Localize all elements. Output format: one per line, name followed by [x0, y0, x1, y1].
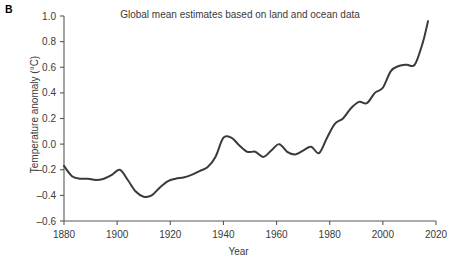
x-tick-label: 2020	[425, 229, 448, 240]
figure-panel-b: B Global mean estimates based on land an…	[0, 0, 457, 268]
x-tick-label-group: 18801900192019401960198020002020	[53, 229, 448, 240]
y-tick-label: 0.4	[42, 87, 56, 98]
x-tick-label: 1940	[212, 229, 235, 240]
x-tick-label: 1980	[319, 229, 342, 240]
y-tick-label: 0.2	[42, 113, 56, 124]
x-tick-label: 1900	[106, 229, 129, 240]
y-tick-label: 1.0	[42, 11, 56, 22]
tick-mark-group	[60, 16, 436, 225]
y-tick-label: –0.6	[37, 216, 57, 227]
x-tick-label: 1920	[159, 229, 182, 240]
y-tick-label: –0.2	[37, 164, 57, 175]
x-tick-label: 1880	[53, 229, 76, 240]
y-tick-label: 0.0	[42, 139, 56, 150]
x-tick-label: 2000	[372, 229, 395, 240]
y-tick-label: 0.8	[42, 36, 56, 47]
chart-plot-area: –0.6–0.4–0.20.00.20.40.60.81.0 188019001…	[0, 0, 457, 268]
x-tick-label: 1960	[265, 229, 288, 240]
y-tick-label-group: –0.6–0.4–0.20.00.20.40.60.81.0	[37, 11, 57, 227]
y-tick-label: –0.4	[37, 190, 57, 201]
temperature-anomaly-line	[64, 21, 428, 197]
y-tick-label: 0.6	[42, 62, 56, 73]
